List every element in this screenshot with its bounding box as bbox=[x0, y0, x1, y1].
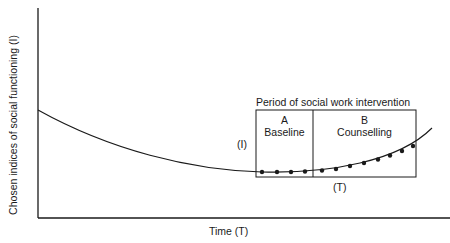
counselling-points bbox=[320, 144, 415, 173]
phase-a-letter: A bbox=[256, 115, 313, 126]
box-x-label: (T) bbox=[333, 182, 346, 193]
box-y-label: (I) bbox=[237, 139, 247, 150]
phase-a-name: Baseline bbox=[256, 127, 313, 138]
box-title: Period of social work intervention bbox=[256, 97, 410, 108]
x-axis-label: Time (T) bbox=[209, 226, 248, 237]
y-axis-label: Chosen indices of social functioning (I) bbox=[8, 35, 19, 215]
phase-b-letter: B bbox=[313, 115, 416, 126]
phase-b-name: Counselling bbox=[313, 127, 416, 138]
